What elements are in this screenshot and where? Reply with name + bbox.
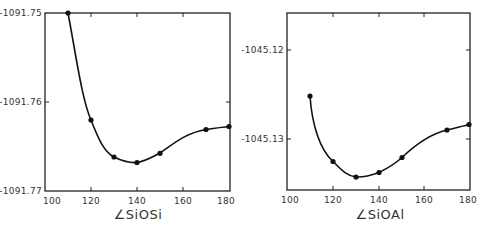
left-xtick-label: 160 bbox=[174, 196, 192, 206]
left-xtick-label: 140 bbox=[128, 196, 146, 206]
right-xtick-label: 120 bbox=[324, 195, 342, 205]
right-xtick-label: 140 bbox=[370, 195, 388, 205]
left-xaxis-label: ∠SiOSi bbox=[114, 207, 163, 222]
left-xtick-label: 180 bbox=[217, 196, 235, 206]
right-xtick-label: 100 bbox=[281, 195, 299, 205]
left-ytick-label: -1091.76 bbox=[0, 97, 42, 107]
right-plot-frame bbox=[287, 13, 470, 190]
left-chart: -1091.75 -1091.76 -1091.77 100 120 140 1… bbox=[0, 8, 235, 222]
right-ytick-label: -1045.13 bbox=[241, 134, 284, 144]
right-xtick-label: 180 bbox=[459, 195, 477, 205]
left-xtick-label: 100 bbox=[43, 196, 61, 206]
right-ytick-label: -1045.12 bbox=[241, 45, 284, 55]
left-ytick-label: -1091.75 bbox=[0, 8, 42, 18]
left-ytick-label: -1091.77 bbox=[0, 186, 42, 196]
left-xtick-label: 120 bbox=[82, 196, 100, 206]
left-data-points bbox=[65, 10, 231, 165]
right-chart: -1045.12 -1045.13 100 120 140 160 180 ∠S… bbox=[241, 13, 477, 222]
right-xaxis-label: ∠SiOAl bbox=[355, 207, 404, 222]
right-xtick-label: 160 bbox=[415, 195, 433, 205]
left-curve bbox=[68, 13, 230, 163]
right-curve bbox=[310, 96, 470, 177]
figure: -1091.75 -1091.76 -1091.77 100 120 140 1… bbox=[0, 0, 486, 225]
